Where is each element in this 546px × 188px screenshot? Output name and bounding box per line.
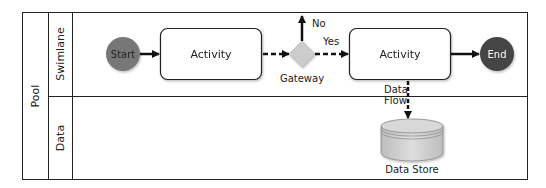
activity-2-label: Activity — [379, 48, 421, 61]
lane-label-swimlane: Swimlane — [54, 27, 67, 81]
yes-label: Yes — [322, 36, 339, 47]
end-label: End — [487, 49, 506, 60]
pool-label: Pool — [29, 85, 42, 108]
activity-1[interactable]: Activity — [161, 29, 262, 80]
activity-1-label: Activity — [190, 48, 232, 61]
data-store-label: Data Store — [385, 164, 439, 175]
end-event[interactable]: End — [480, 37, 514, 71]
data-store[interactable] — [381, 119, 443, 161]
no-label: No — [312, 18, 326, 29]
start-label: Start — [111, 49, 136, 60]
lane-swimlane: Swimlane — [54, 27, 67, 81]
lane-data: Data — [54, 125, 67, 151]
gateway-label: Gateway — [280, 73, 324, 84]
pool: Pool — [23, 13, 528, 180]
data-flow-label-line2: Flow — [384, 95, 407, 106]
start-event[interactable]: Start — [106, 37, 140, 71]
lane-label-data: Data — [54, 125, 67, 151]
activity-2[interactable]: Activity — [350, 29, 451, 80]
data-flow-label-line1: Data — [384, 84, 408, 95]
bpmn-diagram: Pool Swimlane Data No Yes Data Flow Star… — [0, 0, 546, 188]
